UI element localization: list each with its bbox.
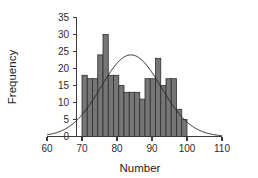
histogram-bar	[140, 99, 145, 136]
histogram-bar	[156, 58, 161, 136]
histogram-bar	[108, 75, 113, 136]
y-tick-label: 5	[63, 114, 69, 125]
histogram-bar	[166, 79, 171, 137]
chart-canvas: 05101520253035 60708090100110 Frequency …	[0, 0, 258, 178]
y-tick-label: 30	[58, 29, 70, 40]
histogram-bar	[135, 92, 140, 136]
histogram-bar	[93, 79, 98, 137]
histogram-figure: 05101520253035 60708090100110 Frequency …	[0, 0, 258, 178]
x-tick-label: 70	[76, 143, 88, 154]
histogram-bar	[145, 79, 150, 137]
histogram-bar	[129, 92, 134, 136]
x-tick-label: 90	[146, 143, 158, 154]
y-tick-label: 35	[58, 12, 70, 23]
histogram-bar	[124, 92, 129, 136]
histogram-bar	[103, 35, 108, 137]
x-axis-ticks: 60708090100110	[41, 137, 230, 155]
x-axis-title: Number	[120, 162, 161, 174]
y-tick-label: 15	[58, 80, 70, 91]
histogram-bar	[82, 75, 87, 136]
histogram-bar	[182, 120, 187, 137]
x-tick-label: 110	[214, 143, 230, 154]
y-tick-label: 20	[58, 63, 70, 74]
histogram-bar	[114, 75, 119, 136]
x-tick-label: 80	[111, 143, 123, 154]
y-tick-label: 25	[58, 46, 70, 57]
y-axis-title: Frequency	[6, 50, 18, 105]
y-tick-label: 0	[63, 131, 69, 142]
y-axis-ticks: 05101520253035	[58, 12, 77, 142]
y-tick-label: 10	[58, 97, 70, 108]
histogram-bars	[82, 35, 187, 137]
x-tick-label: 60	[41, 143, 53, 154]
x-tick-label: 100	[179, 143, 196, 154]
histogram-bar	[98, 55, 103, 137]
histogram-bar	[150, 79, 155, 137]
histogram-bar	[119, 86, 124, 137]
